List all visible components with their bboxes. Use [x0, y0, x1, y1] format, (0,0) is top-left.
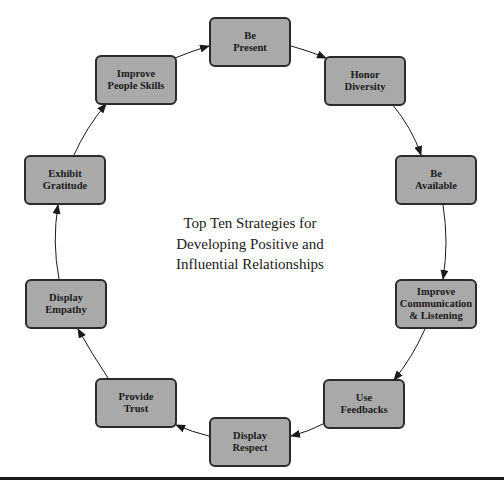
- arrow-display-empathy-to-exhibit-gratitude: [55, 205, 59, 279]
- arrow-display-respect-to-provide-trust: [176, 425, 209, 436]
- node-display-empathy: Display Empathy: [25, 279, 107, 329]
- node-display-respect: Display Respect: [209, 417, 291, 467]
- node-honor-diversity: Honor Diversity: [324, 56, 406, 106]
- title-line: Top Ten Strategies for: [150, 213, 350, 234]
- node-label: Use Feedbacks: [340, 392, 387, 416]
- arrow-use-feedbacks-to-display-respect: [291, 423, 325, 436]
- node-label: Honor Diversity: [345, 69, 386, 93]
- arrow-exhibit-gratitude-to-improve-people-skills: [74, 104, 106, 155]
- node-label: Exhibit Gratitude: [43, 168, 87, 192]
- diagram-title: Top Ten Strategies for Developing Positi…: [150, 213, 350, 275]
- node-label: Provide Trust: [119, 391, 154, 415]
- node-be-present: Be Present: [209, 17, 291, 67]
- node-label: Be Available: [415, 168, 457, 192]
- node-improve-people-skills: Improve People Skills: [95, 55, 177, 105]
- arrow-improve-people-skills-to-be-present: [175, 46, 209, 58]
- strategy-cycle-diagram: Be Present Honor Diversity Be Available …: [0, 0, 504, 482]
- node-label: Display Respect: [233, 430, 268, 454]
- arrow-be-available-to-improve-communication: [443, 205, 446, 279]
- bottom-divider-line: [0, 477, 504, 480]
- node-use-feedbacks: Use Feedbacks: [323, 379, 405, 429]
- node-label: Be Present: [233, 30, 267, 54]
- title-line: Developing Positive and: [150, 234, 350, 255]
- arrow-honor-diversity-to-be-available: [392, 104, 421, 155]
- arrow-improve-communication-to-use-feedbacks: [394, 329, 425, 380]
- node-label: Display Empathy: [45, 292, 86, 316]
- arrow-provide-trust-to-display-empathy: [78, 329, 108, 378]
- arrow-be-present-to-honor-diversity: [291, 46, 326, 58]
- node-label: Improve Communication & Listening: [400, 286, 472, 322]
- node-provide-trust: Provide Trust: [95, 378, 177, 428]
- node-improve-communication: Improve Communication & Listening: [395, 279, 477, 329]
- node-be-available: Be Available: [395, 155, 477, 205]
- title-line: Influential Relationships: [150, 254, 350, 275]
- node-label: Improve People Skills: [108, 68, 165, 92]
- node-exhibit-gratitude: Exhibit Gratitude: [24, 155, 106, 205]
